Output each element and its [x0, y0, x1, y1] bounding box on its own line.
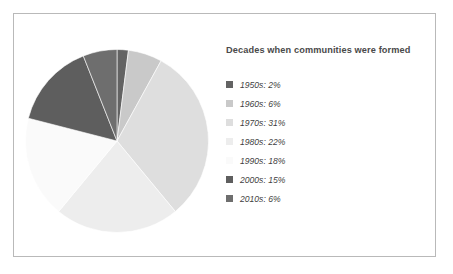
legend-item-1980s[interactable]: 1980s: 22%: [226, 132, 431, 151]
chart-frame: Decades when communities were formed 195…: [13, 13, 436, 257]
legend-swatch-1950s: [226, 81, 233, 88]
legend-item-2010s[interactable]: 2010s: 6%: [226, 189, 431, 208]
legend-label-1970s: 1970s: 31%: [240, 118, 285, 128]
chart-title: Decades when communities were formed: [226, 44, 431, 56]
legend-item-2000s[interactable]: 2000s: 15%: [226, 170, 431, 189]
pie-slice-group: [25, 50, 208, 233]
legend-label-1950s: 1950s: 2%: [240, 80, 281, 90]
legend-label-2010s: 2010s: 6%: [240, 194, 281, 204]
legend-item-1990s[interactable]: 1990s: 18%: [226, 151, 431, 170]
legend-item-1960s[interactable]: 1960s: 6%: [226, 94, 431, 113]
pie-chart-svg: [25, 49, 209, 233]
legend-label-1980s: 1980s: 22%: [240, 137, 285, 147]
legend-label-1960s: 1960s: 6%: [240, 99, 281, 109]
legend-swatch-2000s: [226, 176, 233, 183]
legend-swatch-1980s: [226, 138, 233, 145]
legend-swatch-1960s: [226, 100, 233, 107]
legend-label-1990s: 1990s: 18%: [240, 156, 285, 166]
legend-label-2000s: 2000s: 15%: [240, 175, 285, 185]
pie-chart: [25, 49, 209, 233]
legend-item-1970s[interactable]: 1970s: 31%: [226, 113, 431, 132]
chart-legend-panel: Decades when communities were formed 195…: [226, 44, 431, 208]
legend-swatch-1990s: [226, 157, 233, 164]
legend-item-1950s[interactable]: 1950s: 2%: [226, 75, 431, 94]
legend-swatch-2010s: [226, 195, 233, 202]
legend-list: 1950s: 2%1960s: 6%1970s: 31%1980s: 22%19…: [226, 75, 431, 208]
legend-swatch-1970s: [226, 119, 233, 126]
